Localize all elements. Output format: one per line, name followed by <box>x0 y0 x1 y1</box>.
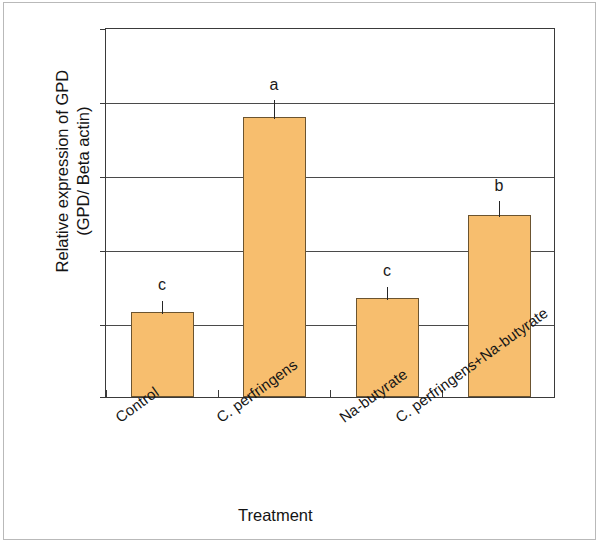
y-tick-mark-1.50 <box>100 177 106 178</box>
error-bar-control <box>162 301 163 314</box>
x-tick-mark-1 <box>218 390 219 397</box>
y-tick-mark-0.00 <box>100 397 106 398</box>
y-tick-mark-1.00 <box>100 251 106 252</box>
error-bar-na-butyrate <box>387 287 388 300</box>
significance-label-na-butyrate: c <box>367 262 407 280</box>
bar-control <box>131 312 194 397</box>
significance-label-c-perfringens: a <box>254 76 294 94</box>
x-axis-title: Treatment <box>238 506 313 525</box>
bar-chart: Relative expression of GPD (GPD/ Beta ac… <box>0 0 603 544</box>
y-axis-title-line-2: (GPD/ Beta actin) <box>73 41 94 301</box>
bar-c-perfringens <box>243 117 306 397</box>
y-axis-title: Relative expression of GPD (GPD/ Beta ac… <box>52 41 94 301</box>
y-tick-mark-0.50 <box>100 325 106 326</box>
x-tick-mark-0 <box>106 390 107 397</box>
x-tick-mark-2 <box>330 390 331 397</box>
y-axis-title-line-1: Relative expression of GPD <box>52 41 73 301</box>
significance-label-c-perfringens-na-butyrate: b <box>479 177 519 195</box>
error-bar-c-perfringens-na-butyrate <box>499 201 500 217</box>
y-tick-mark-2.50 <box>100 29 106 30</box>
chart-page: Relative expression of GPD (GPD/ Beta ac… <box>0 0 603 544</box>
y-tick-mark-2.00 <box>100 103 106 104</box>
significance-label-control: c <box>142 276 182 294</box>
error-bar-c-perfringens <box>274 100 275 119</box>
x-tick-mark-4 <box>554 390 555 397</box>
gridline-2.00 <box>106 103 554 104</box>
